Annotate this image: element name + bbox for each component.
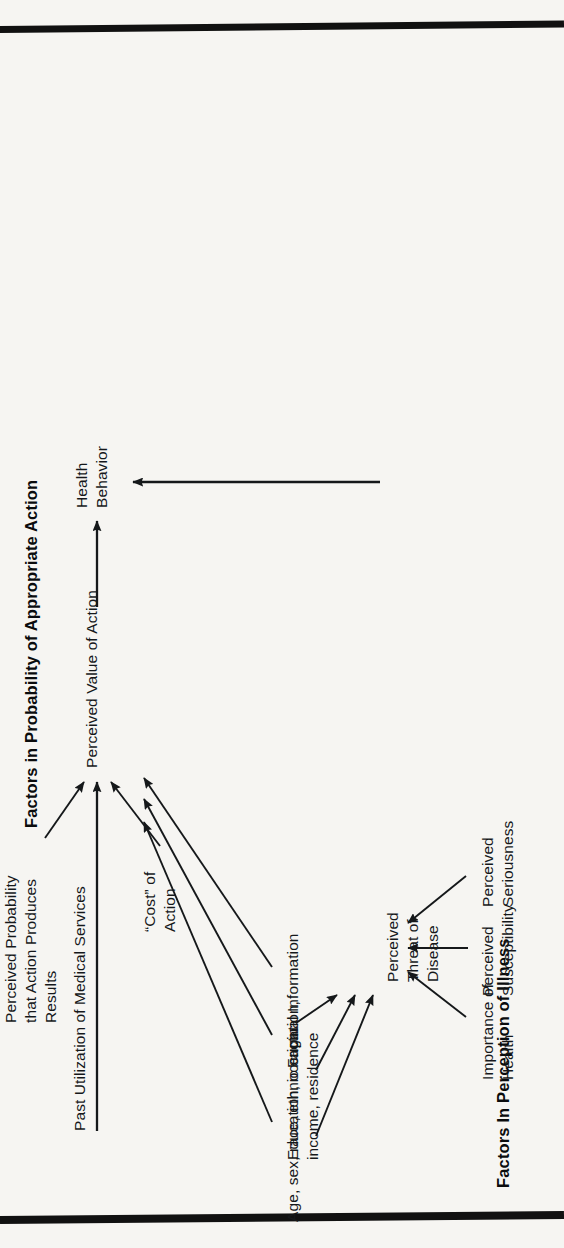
node-perceived-seriousness: Perceived Seriousness <box>478 727 518 907</box>
node-factual-information: Factual Information <box>283 853 303 1068</box>
node-perceived-threat-of-disease: Perceived Threat of Disease <box>383 782 443 982</box>
diagram-stage: Factors In Perception of Illness Factors… <box>0 0 564 1248</box>
node-cost-of-action: “Cost” of Action <box>140 772 180 932</box>
scanned-page: Factors In Perception of Illness Factors… <box>0 0 564 1248</box>
node-past-utilization: Past Utilization of Medical Services <box>70 751 90 1131</box>
node-perceived-value-of-action: Perceived Value of Action <box>82 468 102 768</box>
node-health-behavior: Health Behavior <box>72 328 112 508</box>
node-perceived-probability: Perceived Probability that Action Produc… <box>1 733 61 1023</box>
